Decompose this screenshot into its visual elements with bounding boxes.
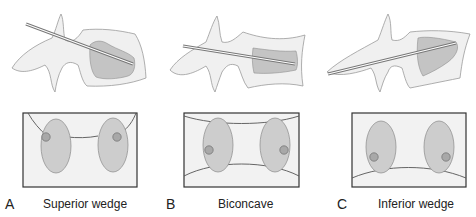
needle-tip-right-c	[442, 153, 450, 161]
panel-caption-b: Biconcave	[218, 197, 273, 211]
panel-letter-b: B	[166, 196, 175, 212]
panel-a-axial-view	[23, 113, 137, 187]
panel-b-lateral-view	[170, 16, 305, 92]
needle-tip-right-a	[113, 133, 121, 141]
panel-letter-a: A	[5, 196, 14, 212]
pedicle-left-c	[366, 121, 396, 173]
pedicle-left-a	[41, 119, 71, 173]
panel-a-lateral-view	[12, 14, 146, 92]
needle-tip-right-b	[280, 146, 288, 154]
vertebroplasty-diagram	[0, 0, 476, 217]
needle-tip-left-c	[370, 153, 378, 161]
panel-letter-c: C	[337, 196, 347, 212]
panel-caption-c: Inferior wedge	[378, 197, 454, 211]
pedicle-right-c	[424, 121, 454, 173]
panel-caption-a: Superior wedge	[43, 197, 127, 211]
panel-c-lateral-view	[327, 14, 470, 92]
needle-tip-left-b	[205, 146, 213, 154]
needle-tip-left-a	[42, 133, 50, 141]
pedicle-left-b	[203, 118, 233, 172]
pedicle-right-a	[98, 118, 128, 172]
pedicle-right-b	[260, 118, 290, 172]
panel-c-axial-view	[352, 113, 466, 187]
panel-b-axial-view	[184, 113, 299, 187]
